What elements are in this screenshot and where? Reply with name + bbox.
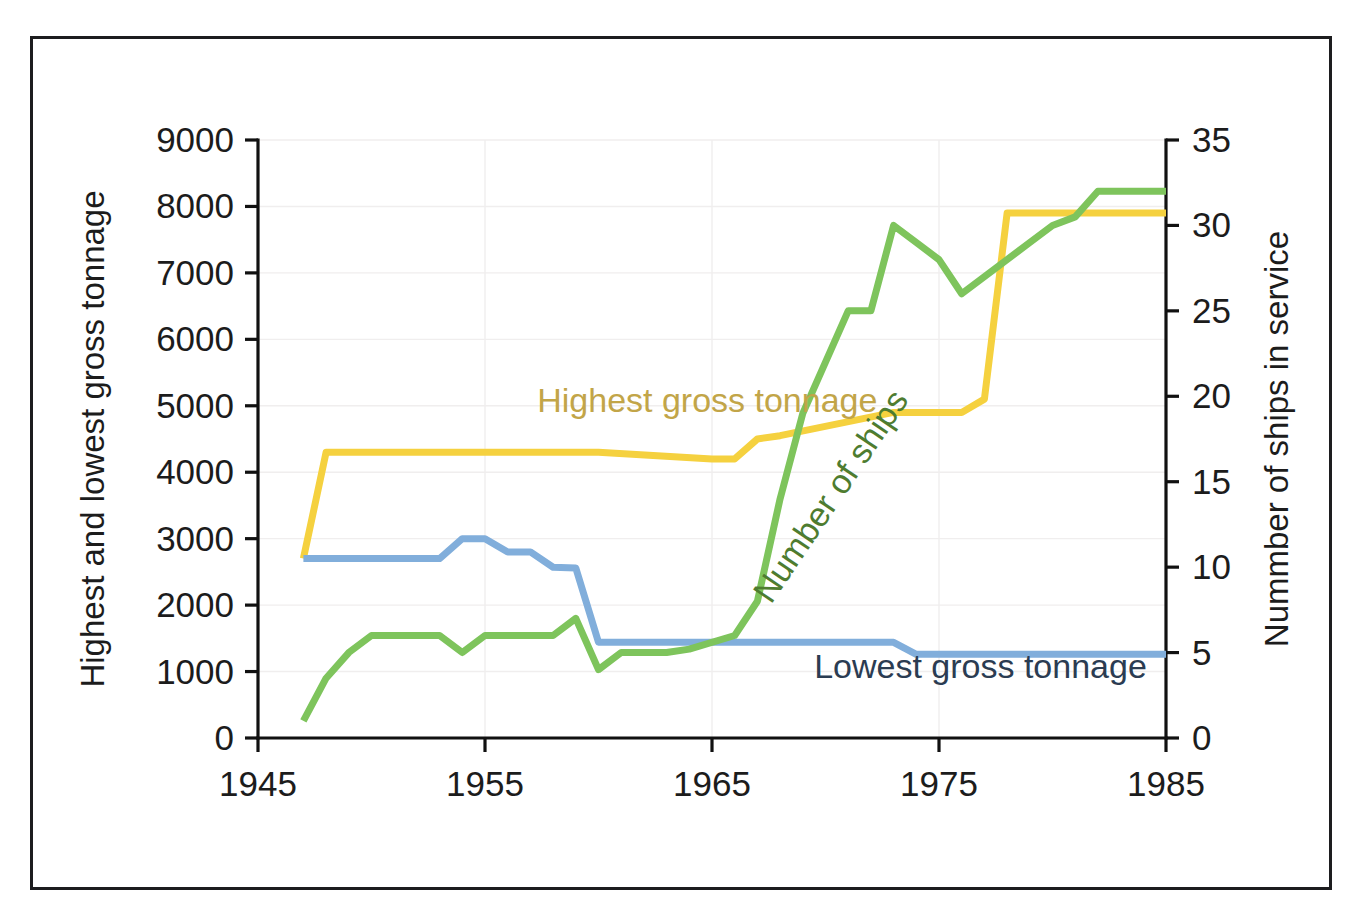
y-axis-right-tick-label: 0 (1192, 718, 1211, 757)
y-axis-right-tick-label: 10 (1192, 547, 1231, 586)
y-axis-left-tick-label: 7000 (156, 253, 234, 292)
y-axis-right-tick-label: 5 (1192, 633, 1211, 672)
highest-gross-tonnage-label: Highest gross tonnage (537, 381, 877, 419)
line-chart: 0100020003000400050006000700080009000051… (0, 0, 1361, 909)
figure-canvas: 0100020003000400050006000700080009000051… (0, 0, 1361, 909)
y-axis-left-title: Highest and lowest gross tonnage (74, 190, 111, 687)
lowest-gross-tonnage-label: Lowest gross tonnage (814, 647, 1147, 685)
y-axis-left-tick-label: 1000 (156, 652, 234, 691)
x-axis-tick-label: 1945 (219, 764, 297, 803)
y-axis-left-tick-label: 6000 (156, 319, 234, 358)
y-axis-right-tick-label: 15 (1192, 462, 1231, 501)
y-axis-right-tick-label: 35 (1192, 120, 1231, 159)
y-axis-left-tick-label: 3000 (156, 519, 234, 558)
x-axis-tick-label: 1955 (446, 764, 524, 803)
x-axis-tick-label: 1965 (673, 764, 751, 803)
y-axis-left-tick-label: 8000 (156, 186, 234, 225)
y-axis-right-title: Nummber of ships in service (1258, 231, 1295, 647)
y-axis-left-tick-label: 9000 (156, 120, 234, 159)
x-axis-tick-label: 1985 (1127, 764, 1205, 803)
y-axis-right-tick-label: 30 (1192, 205, 1231, 244)
y-axis-left-tick-label: 0 (215, 718, 234, 757)
y-axis-right-tick-label: 20 (1192, 376, 1231, 415)
x-axis-tick-label: 1975 (900, 764, 978, 803)
series-lines-group (303, 191, 1166, 721)
y-axis-left-tick-label: 2000 (156, 585, 234, 624)
y-axis-left-tick-label: 5000 (156, 386, 234, 425)
y-axis-left-tick-label: 4000 (156, 452, 234, 491)
y-axis-right-tick-label: 25 (1192, 291, 1231, 330)
